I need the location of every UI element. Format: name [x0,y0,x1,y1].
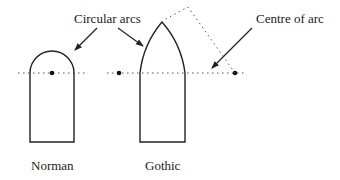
norman-arch [18,51,86,142]
arrow-to-gothic-arc [118,28,143,46]
label-norman: Norman [31,158,74,173]
arch-diagram: Circular arcs Centre of arc Norman Gothi… [0,0,340,180]
arrow-to-centre-of-arc [212,28,252,68]
norman-arch-outline [30,51,74,142]
label-gothic: Gothic [145,158,181,173]
gothic-left-centre-dot [117,71,122,76]
label-centre-of-arc: Centre of arc [256,11,324,26]
arrow-to-norman-arc [75,28,97,50]
gothic-arch [107,7,246,142]
label-circular-arcs: Circular arcs [74,11,141,26]
norman-arc-centre-dot [50,71,55,76]
gothic-arch-outline [140,22,185,142]
